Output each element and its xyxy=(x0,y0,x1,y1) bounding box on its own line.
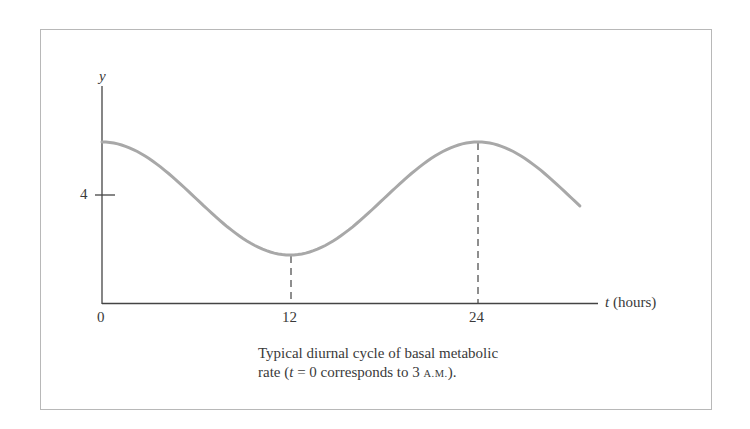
x-tick-label-24: 24 xyxy=(469,309,484,326)
metabolic-rate-curve xyxy=(102,142,580,255)
caption-line-2: rate (t = 0 corresponds to 3 A.M.). xyxy=(258,363,498,383)
y-axis-label: y xyxy=(99,68,106,85)
x-axis-label: t (hours) xyxy=(605,294,656,311)
caption-line-1: Typical diurnal cycle of basal metabolic xyxy=(258,344,498,363)
x-tick-label-12: 12 xyxy=(282,309,297,326)
figure-caption: Typical diurnal cycle of basal metabolic… xyxy=(258,344,498,383)
y-tick-label-4: 4 xyxy=(80,186,88,203)
x-tick-label-0: 0 xyxy=(97,309,105,326)
